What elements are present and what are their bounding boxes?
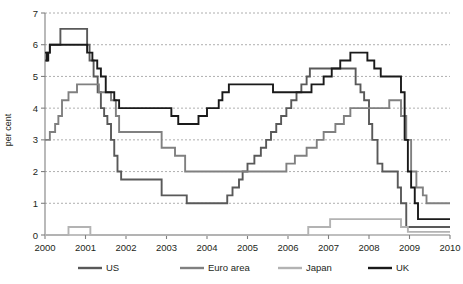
chart-figure: 01234567 2000200120022003200420052006200… [0, 0, 463, 284]
x-tick-label-2007: 2007 [318, 242, 339, 253]
legend-label-uk: UK [396, 262, 410, 273]
y-tick-label-4: 4 [33, 103, 38, 114]
y-tick-label-6: 6 [33, 39, 38, 50]
x-tick-label-2009: 2009 [399, 242, 420, 253]
chart-background [0, 0, 463, 284]
legend-label-japan: Japan [306, 262, 332, 273]
x-tick-label-2006: 2006 [277, 242, 298, 253]
y-axis-title: per cent [3, 113, 13, 146]
legend-label-us: US [106, 262, 119, 273]
x-tick-label-2005: 2005 [237, 242, 258, 253]
x-tick-label-2003: 2003 [156, 242, 177, 253]
x-tick-label-2000: 2000 [34, 242, 55, 253]
legend-label-euro-area: Euro area [208, 262, 250, 273]
y-tick-label-3: 3 [33, 134, 38, 145]
x-tick-label-2010: 2010 [439, 242, 460, 253]
y-tick-label-1: 1 [33, 198, 38, 209]
y-tick-label-2: 2 [33, 166, 38, 177]
x-tick-label-2004: 2004 [196, 242, 217, 253]
y-tick-label-7: 7 [33, 8, 38, 19]
policy-rate-line-chart: 01234567 2000200120022003200420052006200… [0, 0, 463, 284]
x-tick-label-2008: 2008 [358, 242, 379, 253]
x-tick-label-2001: 2001 [75, 242, 96, 253]
y-tick-label-0: 0 [33, 230, 38, 241]
x-tick-label-2002: 2002 [115, 242, 136, 253]
y-tick-label-5: 5 [33, 71, 38, 82]
